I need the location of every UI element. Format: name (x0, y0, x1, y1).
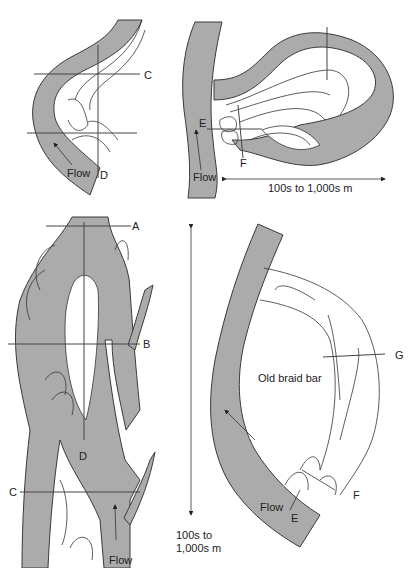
label-d-top-left: D (100, 170, 108, 181)
label-scale-vertical-line2: 1,000s m (176, 543, 221, 554)
label-scale-vertical-line1: 100s to (176, 530, 212, 541)
label-d-bottom-left: D (79, 451, 87, 462)
river-channel-diagram (0, 0, 416, 568)
label-e-bottom-right: E (291, 513, 298, 524)
label-a: A (132, 221, 139, 232)
label-c-top-left: C (144, 70, 152, 81)
label-scale-horizontal: 100s to 1,000s m (268, 183, 352, 194)
label-e-top-right: E (199, 118, 206, 129)
label-flow-bottom-right: Flow (260, 502, 283, 513)
label-f-top-right: F (240, 158, 247, 169)
label-old-braid-bar: Old braid bar (258, 373, 322, 384)
label-b: B (143, 339, 150, 350)
label-f-bottom-right: F (353, 490, 360, 501)
panel-bottom-left-braided (8, 217, 155, 568)
label-flow-top-right: Flow (193, 172, 216, 183)
label-flow-bottom-left: Flow (109, 555, 132, 566)
label-c-bottom-left: C (9, 487, 17, 498)
label-g: G (395, 350, 404, 361)
label-flow-top-left: Flow (67, 168, 90, 179)
